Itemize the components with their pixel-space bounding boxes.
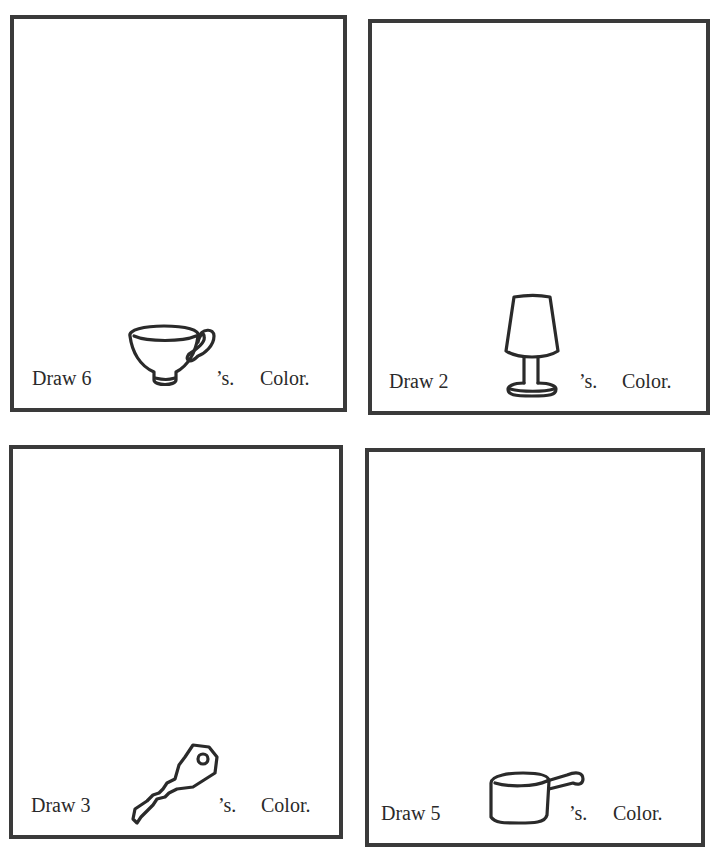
teacup-icon bbox=[124, 322, 216, 394]
panel-caption: Draw 3 ’s. Color. bbox=[13, 735, 339, 825]
panel-caption: Draw 6 ’s. Color. bbox=[14, 338, 343, 398]
panel-draw-cups[interactable]: Draw 6 ’s. Color. bbox=[10, 15, 347, 412]
panel-draw-lamps[interactable]: Draw 2 ’s. Color. bbox=[368, 19, 710, 415]
draw-count-label: Draw 6 bbox=[32, 367, 91, 390]
key-icon bbox=[131, 743, 223, 825]
color-instruction: Color. bbox=[613, 802, 662, 825]
draw-count-label: Draw 2 bbox=[389, 370, 448, 393]
panel-draw-keys[interactable]: Draw 3 ’s. Color. bbox=[9, 445, 343, 839]
draw-count-label: Draw 3 bbox=[31, 794, 90, 817]
plural-suffix: ’s. bbox=[569, 802, 587, 825]
panel-draw-pots[interactable]: Draw 5 ’s. Color. bbox=[365, 448, 705, 847]
color-instruction: Color. bbox=[261, 794, 310, 817]
color-instruction: Color. bbox=[622, 370, 671, 393]
color-instruction: Color. bbox=[260, 367, 309, 390]
panel-caption: Draw 2 ’s. Color. bbox=[372, 281, 706, 401]
plural-suffix: ’s. bbox=[579, 370, 597, 393]
plural-suffix: ’s. bbox=[218, 794, 236, 817]
plural-suffix: ’s. bbox=[216, 367, 234, 390]
draw-count-label: Draw 5 bbox=[381, 802, 440, 825]
lamp-icon bbox=[502, 293, 562, 397]
panel-caption: Draw 5 ’s. Color. bbox=[369, 773, 701, 833]
